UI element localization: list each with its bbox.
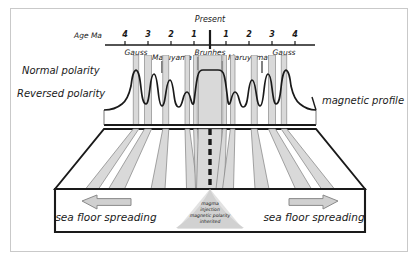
- magma-note-line-4: inherited: [200, 219, 221, 224]
- caption-magnetic-profile: magnetic profile: [322, 95, 404, 106]
- age-axis: [105, 30, 315, 49]
- label-sea-floor-spreading-left: sea floor spreading: [55, 211, 157, 223]
- label-sea-floor-spreading-right: sea floor spreading: [263, 211, 365, 223]
- magma-note-line-3: magnetic polarity: [190, 213, 231, 218]
- profile-caption-leader: [312, 97, 316, 110]
- axis-tick-right-3: 3: [269, 30, 275, 39]
- magma-note-line-2: injection: [200, 207, 220, 212]
- axis-tick-right-1: 1: [223, 30, 229, 39]
- axis-tick-right-2: 2: [246, 30, 252, 39]
- magma-note-line-1: magma: [201, 201, 219, 206]
- axis-label-age-ma: Age Ma: [73, 31, 102, 40]
- axis-tick-right-4: 4: [291, 30, 298, 39]
- label-reversed-polarity: Reversed polarity: [17, 88, 106, 99]
- axis-label-present: Present: [195, 15, 226, 24]
- axis-tick-left-4: 4: [121, 30, 128, 39]
- axis-tick-left-2: 2: [168, 30, 174, 39]
- label-normal-polarity: Normal polarity: [22, 65, 101, 76]
- axis-tick-left-3: 3: [145, 30, 151, 39]
- figure-stage: Age Ma Present 4 3 2 1 1 2 3 4 Gauss Mar…: [0, 0, 419, 262]
- seafloor-spreading-diagram: Age Ma Present 4 3 2 1 1 2 3 4 Gauss Mar…: [0, 0, 419, 262]
- magnetic-profile-panel: [104, 55, 316, 125]
- axis-tick-left-1: 1: [191, 30, 197, 39]
